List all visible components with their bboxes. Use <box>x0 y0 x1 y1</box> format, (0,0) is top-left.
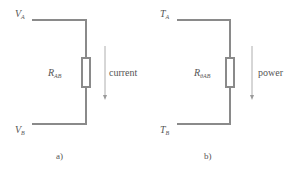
label-power: power <box>258 67 284 78</box>
label-ta: TA <box>160 8 170 20</box>
label-rab: RAB <box>47 67 62 79</box>
diagram-a-electrical: VA VB RAB current a) <box>15 8 138 161</box>
label-rthetaab: RθAB <box>193 67 211 79</box>
wire-bottom-a <box>32 87 86 124</box>
label-tb: TB <box>160 124 170 136</box>
wire-bottom-b <box>177 87 230 124</box>
diagram-b-thermal: TA TB RθAB power b) <box>160 8 284 161</box>
current-arrowhead-icon <box>103 95 107 100</box>
resistor-b <box>226 58 234 87</box>
wire-top-b <box>177 20 230 58</box>
caption-b: b) <box>204 151 212 161</box>
label-current: current <box>109 67 138 78</box>
caption-a: a) <box>56 151 63 161</box>
label-vb: VB <box>15 124 25 136</box>
power-arrowhead-icon <box>250 95 254 100</box>
label-va: VA <box>15 8 25 20</box>
circuit-analogy-diagram: VA VB RAB current a) TA TB RθAB power b) <box>0 0 299 171</box>
wire-top-a <box>32 20 86 58</box>
resistor-a <box>82 58 90 87</box>
